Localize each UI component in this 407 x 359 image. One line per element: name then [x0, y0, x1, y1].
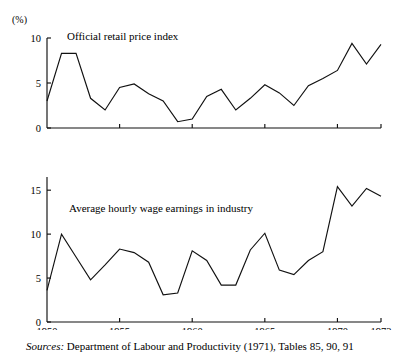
- x-tick-label: 1955: [109, 326, 130, 330]
- x-tick-label: 1970: [327, 326, 348, 330]
- figure-root: (%) 0510 Official retail price index 051…: [0, 0, 407, 359]
- chart-panel-retail-price-index: 0510: [0, 28, 407, 140]
- y-axis-unit-label: (%): [12, 14, 27, 25]
- x-tick-label: 1973: [371, 326, 392, 330]
- y-tick-label: 0: [36, 123, 41, 134]
- chart-title-wage-earnings: Average hourly wage earnings in industry: [69, 202, 253, 214]
- chart-title-retail-price-index: Official retail price index: [67, 30, 178, 42]
- y-tick-label: 5: [36, 273, 41, 284]
- y-tick-label: 10: [31, 33, 42, 44]
- y-tick-label: 5: [36, 78, 41, 89]
- x-tick-label: 1960: [182, 326, 203, 330]
- source-label: Sources:: [26, 340, 64, 352]
- y-tick-label: 15: [31, 185, 42, 196]
- x-tick-label: 1950: [37, 326, 58, 330]
- wage-earnings-plot: 051015195019551960196519701973: [0, 165, 407, 330]
- retail-price-index-plot: 0510: [0, 28, 407, 140]
- source-note: Sources: Department of Labour and Produc…: [26, 340, 354, 352]
- source-text: Department of Labour and Productivity (1…: [67, 340, 354, 352]
- y-tick-label: 10: [31, 229, 42, 240]
- x-tick-label: 1965: [254, 326, 275, 330]
- chart-panel-wage-earnings: 051015195019551960196519701973: [0, 165, 407, 330]
- data-series-line: [47, 43, 381, 121]
